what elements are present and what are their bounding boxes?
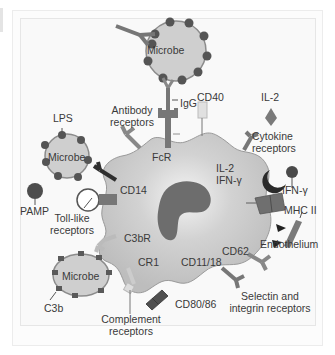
macrophage-cell bbox=[99, 133, 271, 293]
label-complement-receptors: Complement receptors bbox=[100, 313, 162, 337]
label-fcr: FcR bbox=[152, 151, 171, 163]
label-cd11-18: CD11/18 bbox=[181, 256, 222, 268]
label-endothelium: Endothelium bbox=[260, 238, 318, 250]
label-igg: IgG bbox=[180, 97, 197, 109]
label-c3b: C3b bbox=[44, 302, 63, 314]
label-pamp: PAMP bbox=[20, 205, 49, 217]
cd11-18-receptor bbox=[222, 268, 244, 288]
label-toll-like-receptors: Toll-like receptors bbox=[50, 212, 94, 236]
label-microbe-bottom: Microbe bbox=[62, 270, 99, 282]
pamp bbox=[27, 183, 43, 205]
cd80-86-receptor bbox=[146, 290, 168, 310]
label-lps: LPS bbox=[53, 112, 73, 124]
label-cd40: CD40 bbox=[197, 91, 224, 103]
label-c3br: C3bR bbox=[124, 232, 151, 244]
label-microbe-left: Microbe bbox=[48, 151, 85, 163]
label-antibody-receptors: Antibody receptors bbox=[109, 104, 155, 128]
label-cd80-86: CD80/86 bbox=[175, 298, 216, 310]
label-il2-cell: IL-2 bbox=[216, 162, 234, 174]
il2-diamond bbox=[265, 108, 277, 126]
label-mhc2: MHC II bbox=[284, 204, 317, 216]
cd62-receptor bbox=[248, 254, 270, 270]
label-microbe-top: Microbe bbox=[147, 44, 184, 56]
antibody-receptor bbox=[122, 126, 140, 148]
cd40-receptor bbox=[198, 102, 207, 136]
label-il2-top: IL-2 bbox=[261, 91, 279, 103]
label-cr1: CR1 bbox=[138, 256, 159, 268]
label-cd14: CD14 bbox=[120, 184, 147, 196]
label-ifn-ext: IFN-γ bbox=[282, 184, 308, 196]
label-ifn-cell: IFN-γ bbox=[216, 174, 242, 186]
label-cd62: CD62 bbox=[222, 245, 249, 257]
label-cytokine-receptors: Cytokine receptors bbox=[252, 130, 296, 154]
label-selectin-integrin: Selectin and integrin receptors bbox=[228, 290, 312, 314]
